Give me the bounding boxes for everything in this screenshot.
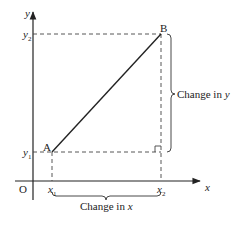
point-a-label: A bbox=[43, 141, 51, 153]
right-angle-marker bbox=[155, 146, 161, 152]
change-in-y-label: Change in y bbox=[177, 88, 230, 100]
y1-label: y1 bbox=[22, 146, 32, 161]
change-in-x-brace bbox=[52, 192, 161, 200]
origin-label: O bbox=[19, 183, 27, 195]
segment-ab bbox=[52, 34, 161, 152]
change-in-x-label: Change in x bbox=[80, 200, 133, 212]
gradient-diagram: y x O y2 y1 x1 x2 A B Change in y Change… bbox=[0, 0, 235, 229]
point-b-label: B bbox=[160, 22, 167, 34]
y2-label: y2 bbox=[22, 28, 32, 43]
x-axis-label: x bbox=[204, 181, 210, 193]
x1-label: x1 bbox=[47, 183, 57, 198]
change-in-y-brace bbox=[167, 34, 175, 152]
y-axis-label: y bbox=[24, 7, 30, 19]
